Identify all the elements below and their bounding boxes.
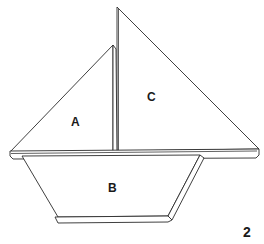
- sail-c: [117, 7, 259, 151]
- sailboat-diagram: A B C 2: [0, 0, 264, 244]
- label-a: A: [71, 115, 80, 129]
- figure-number: 2: [243, 224, 251, 240]
- label-b: B: [108, 181, 117, 195]
- sail-a: [10, 45, 113, 152]
- hull-bottom-plank: [55, 216, 172, 223]
- label-c: C: [147, 90, 156, 104]
- mast: [113, 45, 117, 154]
